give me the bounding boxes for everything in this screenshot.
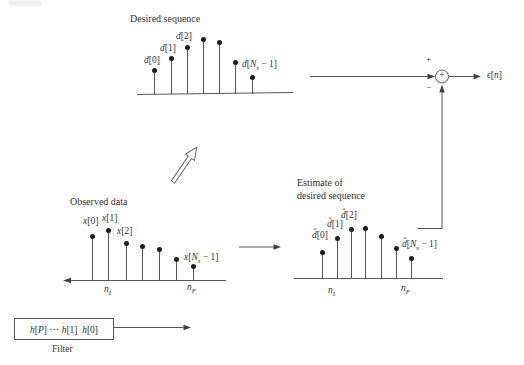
desired-to-sum-arrowhead-icon [428, 74, 436, 79]
figure-canvas: Desired sequence d[0]d[1]d[2]d[Ns − 1] O… [0, 0, 524, 365]
filter-box-label: h[P] ⋯ h[1] h[0] [30, 324, 98, 335]
sum-output-arrowhead-icon [474, 74, 482, 79]
desired-sequence-title: Desired sequence [130, 13, 200, 24]
connector-layer [0, 0, 524, 365]
sum-minus-input-label: − [426, 82, 431, 93]
filter-caption: Filter [52, 344, 73, 355]
filter-output-arrowhead-icon [184, 325, 192, 330]
estimate-axis-label-nI: nI [328, 285, 335, 300]
estimate-title-line2: desired sequence [297, 189, 365, 202]
filter-box: h[P] ⋯ h[1] h[0] [14, 318, 114, 340]
observed-to-estimate-arrowhead-icon [274, 244, 282, 249]
observed-data-title: Observed data [70, 196, 127, 207]
summation-node-symbol: + [438, 70, 446, 80]
error-signal-label: ϵ[n] [487, 70, 502, 81]
observed-axis-label-nI: nI [104, 284, 111, 299]
hollow-up-arrow-icon [168, 144, 201, 185]
estimate-title-line1: Estimate of [297, 176, 365, 189]
estimate-title: Estimate of desired sequence [297, 176, 365, 202]
estimate-axis-label-nF: nF [401, 283, 410, 298]
observed-axis-arrowhead-icon [63, 278, 71, 283]
feedback-arrowhead-icon [439, 85, 444, 93]
desired-axis-line [137, 93, 293, 95]
sum-plus-input-label: + [426, 54, 431, 65]
observed-axis-label-nF: nF [187, 282, 196, 297]
